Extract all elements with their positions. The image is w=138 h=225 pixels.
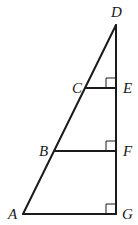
label-B: B — [39, 143, 48, 159]
right-angle-F-icon — [106, 141, 116, 151]
label-F: F — [122, 143, 133, 159]
label-A: A — [7, 206, 18, 222]
segment-AD — [23, 25, 116, 214]
geometry-diagram: D C E B F A G — [0, 0, 138, 225]
label-E: E — [122, 80, 132, 96]
label-C: C — [72, 80, 83, 96]
label-G: G — [122, 206, 133, 222]
label-D: D — [110, 4, 122, 20]
right-angle-G-icon — [106, 204, 116, 214]
right-angle-E-icon — [106, 78, 116, 88]
